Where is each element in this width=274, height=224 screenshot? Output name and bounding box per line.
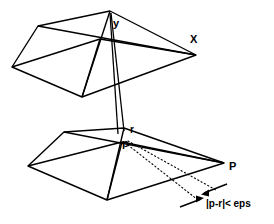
dotted-leader-lines xyxy=(128,141,216,200)
label-p-point: p xyxy=(122,138,129,149)
dotted-leader-upper xyxy=(128,141,216,190)
lower-edge-center-to-bottom xyxy=(107,142,122,200)
y-to-p-projector xyxy=(110,13,124,134)
projector-line-right xyxy=(111,13,124,131)
lower-edge-left-to-center xyxy=(28,142,122,166)
label-y-apex: y xyxy=(113,18,119,29)
label-epsilon-annotation: |p-r|< eps xyxy=(206,199,251,209)
upper-edge-left-to-center xyxy=(12,39,100,67)
label-x-vertex: X xyxy=(190,34,197,45)
dotted-leader-lower xyxy=(128,145,198,200)
projector-line-left xyxy=(110,13,118,134)
upper-edge-center-to-bottom xyxy=(82,39,100,97)
measure-arrow-right-head xyxy=(201,190,209,197)
upper-surface-outline xyxy=(12,11,196,97)
label-P-vertex: P xyxy=(229,161,236,172)
upper-surface xyxy=(12,11,196,97)
geometry-diagram xyxy=(0,0,274,224)
measure-arrow-left-head xyxy=(196,196,204,203)
figure-container: y X r p P |p-r|< eps xyxy=(0,0,274,224)
label-r-point: r xyxy=(130,125,134,135)
